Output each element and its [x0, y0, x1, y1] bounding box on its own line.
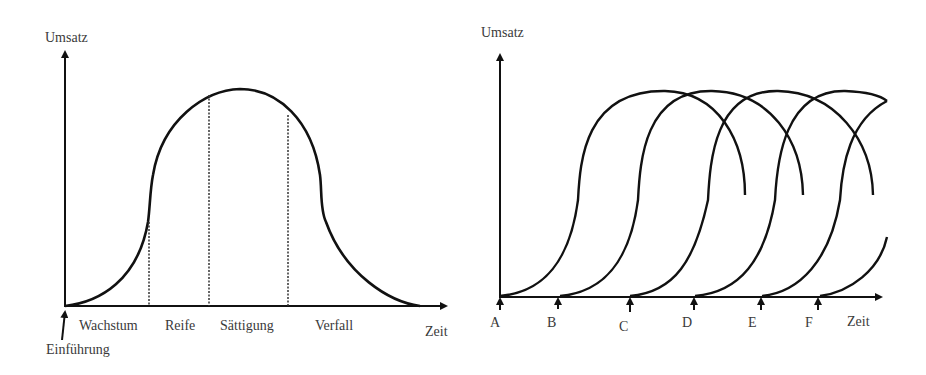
introduction-label: Einführung [46, 343, 110, 357]
diagrams-canvas [0, 0, 926, 375]
introduction-arrow-icon [62, 312, 65, 340]
marker-label-f: F [805, 316, 813, 330]
phase-label-reife: Reife [165, 319, 195, 333]
left-x-axis-label: Zeit [425, 325, 448, 339]
phase-label-saettigung: Sättigung [220, 319, 274, 333]
phase-label-verfall: Verfall [315, 319, 353, 333]
right-y-axis-label: Umsatz [481, 26, 524, 40]
marker-label-c: C [619, 320, 628, 334]
marker-label-b: B [547, 316, 556, 330]
right-x-axis-label: Zeit [847, 315, 870, 329]
phase-label-wachstum: Wachstum [79, 319, 138, 333]
lifecycle-curve-f [820, 237, 887, 296]
launch-marker-arrows [500, 299, 818, 312]
lifecycle-curve-e [762, 101, 887, 296]
marker-label-a: A [490, 316, 500, 330]
marker-label-e: E [748, 316, 757, 330]
lifecycle-curves [500, 91, 887, 296]
right-overlapping-lifecycles-diagram [499, 55, 887, 312]
left-lifecycle-diagram [62, 52, 446, 340]
left-y-axis-label: Umsatz [45, 31, 88, 45]
left-lifecycle-curve [65, 89, 420, 306]
marker-label-d: D [682, 316, 692, 330]
